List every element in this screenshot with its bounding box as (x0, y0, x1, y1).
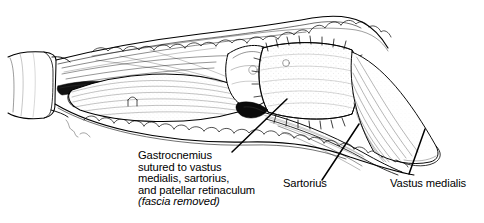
sartorius-leader-line (322, 124, 359, 180)
gastrocnemius-caption: Gastrocnemius sutured to vastus medialis… (138, 150, 255, 208)
vastus-medialis-label: Vastus medialis (390, 178, 466, 190)
caption-line-1: Gastrocnemius (138, 150, 255, 162)
sartorius-label: Sartorius (283, 178, 327, 190)
caption-line-italic: (fascia removed) (138, 196, 255, 208)
surgical-illustration-figure: Gastrocnemius sutured to vastus medialis… (0, 0, 484, 223)
vastus-medialis-muscle (346, 48, 446, 168)
pedicle-shadow (236, 102, 268, 118)
artist-mark (66, 120, 90, 137)
